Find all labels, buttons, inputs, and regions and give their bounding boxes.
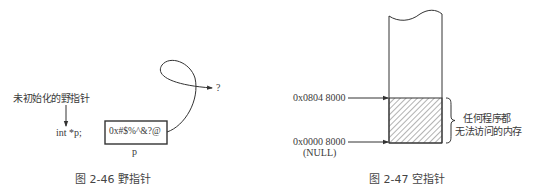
pointer-name-label: p — [132, 146, 137, 157]
wild-pointer-loop-arrow — [160, 60, 212, 132]
region-brace — [446, 98, 455, 143]
null-pointer-figure — [348, 10, 455, 143]
address-top-label: 0x0804 8000 — [293, 92, 346, 103]
inaccessible-region — [389, 98, 442, 143]
pointer-garbage-value: 0x#$%^&?@ — [109, 126, 161, 136]
wild-pointer-annotation: 未初始化的野指针 — [13, 90, 89, 105]
pointer-declaration: int *p; — [56, 127, 82, 138]
null-label: (NULL) — [303, 147, 336, 158]
address-bottom-label: 0x0000 8000 — [293, 136, 346, 147]
region-note-line2: 无法访问的内存 — [455, 123, 522, 138]
unknown-target-label: ? — [216, 82, 220, 93]
figure-caption-left: 图 2-46 野指针 — [75, 170, 151, 184]
figure-caption-right: 图 2-47 空指针 — [369, 170, 445, 184]
